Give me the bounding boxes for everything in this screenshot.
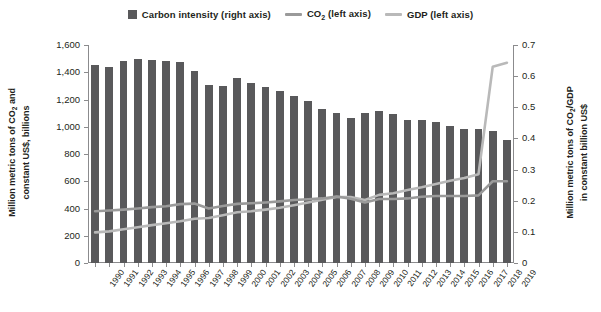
line-swatch-icon-co2	[285, 13, 302, 16]
x-tick-mark	[351, 263, 352, 267]
x-tick-mark	[138, 263, 139, 267]
right-tick-mark	[514, 138, 518, 139]
x-tick-mark	[322, 263, 323, 267]
right-tick-mark	[514, 263, 518, 264]
x-label-2001: 2001	[264, 268, 282, 288]
x-tick-mark	[223, 263, 224, 267]
left-tick-label: 1,200	[56, 95, 80, 105]
right-tick-mark	[514, 170, 518, 171]
x-tick-mark	[180, 263, 181, 267]
x-tick-mark	[493, 263, 494, 267]
right-tick-mark	[514, 45, 518, 46]
left-axis-title: Million metric tons of CO2 andconstant U…	[7, 47, 32, 257]
right-axis-title: Million metric tons of CO2/GDPin constan…	[565, 47, 590, 257]
x-tick-mark	[337, 263, 338, 267]
x-tick-mark	[294, 263, 295, 267]
right-tick-mark	[514, 76, 518, 77]
x-tick-mark	[507, 263, 508, 267]
right-tick-mark	[514, 107, 518, 108]
x-tick-mark	[365, 263, 366, 267]
x-tick-mark	[479, 263, 480, 267]
line-series-group	[88, 45, 514, 263]
left-tick-label: 600	[64, 176, 80, 186]
line-series-co2	[95, 181, 507, 211]
right-tick-mark	[514, 232, 518, 233]
left-tick-label: 1,600	[56, 40, 80, 50]
right-tick-label: 0.1	[522, 227, 535, 237]
x-tick-mark	[308, 263, 309, 267]
x-tick-mark	[209, 263, 210, 267]
left-tick-label: 1,400	[56, 67, 80, 77]
left-tick-label: 1,000	[56, 122, 80, 132]
x-tick-mark	[393, 263, 394, 267]
x-label-2002: 2002	[279, 268, 297, 288]
plot-area: 02004006008001,0001,2001,4001,600 00.10.…	[88, 45, 514, 263]
right-tick-label: 0.5	[522, 102, 535, 112]
x-label-2017: 2017	[492, 268, 510, 288]
left-tick-label: 0	[75, 258, 80, 268]
right-tick-label: 0.2	[522, 196, 535, 206]
right-tick-label: 0	[522, 258, 527, 268]
legend-label-carbon-intensity: Carbon intensity (right axis)	[142, 9, 271, 20]
x-tick-mark	[109, 263, 110, 267]
x-label-2006: 2006	[335, 268, 353, 288]
x-tick-mark	[95, 263, 96, 267]
x-tick-mark	[166, 263, 167, 267]
right-tick-label: 0.3	[522, 165, 535, 175]
legend-item-gdp: GDP (left axis)	[385, 9, 473, 20]
right-tick-label: 0.7	[522, 40, 535, 50]
x-tick-mark	[408, 263, 409, 267]
x-tick-mark	[251, 263, 252, 267]
x-label-1996: 1996	[193, 268, 211, 288]
left-tick-label: 800	[64, 149, 80, 159]
x-tick-mark	[436, 263, 437, 267]
x-label-1997: 1997	[208, 268, 226, 288]
x-label-1992: 1992	[137, 268, 155, 288]
x-label-1991: 1991	[122, 268, 140, 288]
x-label-2016: 2016	[477, 268, 495, 288]
x-tick-mark	[195, 263, 196, 267]
legend-label-gdp: GDP (left axis)	[407, 9, 473, 20]
x-tick-mark	[422, 263, 423, 267]
x-label-2012: 2012	[421, 268, 439, 288]
left-tick-label: 200	[64, 231, 80, 241]
left-tick-mark	[84, 263, 88, 264]
x-tick-mark	[237, 263, 238, 267]
legend-item-co2: CO2 (left axis)	[285, 8, 371, 21]
carbon-intensity-chart: Carbon intensity (right axis) CO2 (left …	[0, 0, 601, 312]
x-tick-mark	[152, 263, 153, 267]
legend-item-carbon-intensity: Carbon intensity (right axis)	[128, 9, 271, 20]
left-tick-label: 400	[64, 204, 80, 214]
right-tick-label: 0.6	[522, 71, 535, 81]
x-tick-mark	[464, 263, 465, 267]
chart-legend: Carbon intensity (right axis) CO2 (left …	[0, 8, 601, 21]
line-swatch-icon-gdp	[385, 13, 402, 16]
right-tick-label: 0.4	[522, 133, 535, 143]
x-tick-mark	[124, 263, 125, 267]
x-tick-mark	[379, 263, 380, 267]
x-tick-mark	[280, 263, 281, 267]
x-tick-mark	[266, 263, 267, 267]
x-label-2007: 2007	[350, 268, 368, 288]
x-tick-mark	[450, 263, 451, 267]
legend-label-co2: CO2 (left axis)	[307, 8, 371, 21]
bar-swatch-icon	[128, 10, 137, 19]
right-tick-mark	[514, 201, 518, 202]
